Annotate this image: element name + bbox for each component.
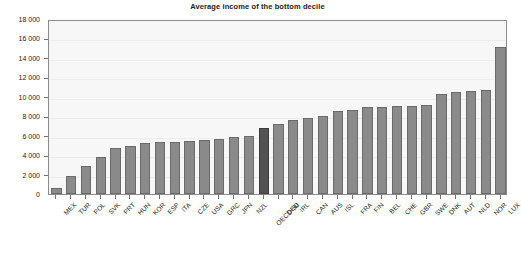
x-axis-tick-mark: [248, 195, 249, 199]
bar-bel: [377, 107, 387, 195]
x-axis-tick-mark: [129, 195, 130, 199]
x-axis-tick-mark: [352, 195, 353, 199]
bar-oecd-30: [259, 128, 269, 194]
y-axis-tick: 4 000: [0, 151, 48, 161]
bar-che: [392, 106, 402, 194]
x-axis-tick-mark: [218, 195, 219, 199]
x-axis-tick-mark: [55, 195, 56, 199]
x-axis-tick-label: GRC: [226, 201, 242, 217]
x-axis-tick-mark: [278, 195, 279, 199]
x-axis: MEXTURPOLSVKPRTHUNKORESPITACZEUSAGRCJPNN…: [48, 195, 507, 254]
x-axis-tick-label: ITA: [180, 201, 192, 213]
y-axis-tick: 18 000: [0, 15, 48, 25]
bar-cze: [184, 141, 194, 194]
bar-nld: [466, 91, 476, 194]
x-axis-tick-label: NZL: [255, 201, 269, 215]
x-axis-tick-mark: [307, 195, 308, 199]
x-axis-tick-label: CAN: [314, 201, 329, 216]
x-axis-tick-mark: [500, 195, 501, 199]
bar-aut: [451, 92, 461, 194]
y-axis-tick: 2 000: [0, 171, 48, 181]
x-axis-tick-mark: [381, 195, 382, 199]
bar-grc: [214, 139, 224, 194]
x-axis-tick-label: JPN: [240, 201, 254, 215]
x-axis-tick-label: AUS: [329, 201, 344, 216]
y-axis: 02 0004 0006 0008 00010 00012 00014 0001…: [0, 20, 48, 195]
y-axis-tick-label: 16 000: [19, 34, 40, 44]
bar-nor: [481, 90, 491, 194]
x-axis-tick-mark: [292, 195, 293, 199]
bar-nzl: [244, 136, 254, 194]
x-axis-tick-label: NLD: [477, 201, 491, 215]
x-axis-tick-label: BEL: [388, 201, 402, 215]
x-axis-tick-mark: [159, 195, 160, 199]
bar-swe: [421, 105, 431, 194]
bar-irl: [288, 120, 298, 194]
x-axis-tick-mark: [263, 195, 264, 199]
bar-usa: [199, 140, 209, 194]
x-axis-tick-label: CZE: [196, 201, 210, 215]
y-axis-tick-label: 6 000: [22, 132, 40, 142]
x-axis-tick-label: PRT: [122, 201, 136, 215]
bar-lux: [495, 47, 505, 194]
x-axis-tick-mark: [233, 195, 234, 199]
x-axis-tick-mark: [337, 195, 338, 199]
bar-can: [303, 118, 313, 194]
x-axis-tick-label: DNK: [448, 201, 463, 216]
bar-fin: [362, 107, 372, 194]
bar-ita: [170, 142, 180, 195]
bar-fra: [347, 110, 357, 194]
x-axis-tick-label: HUN: [137, 201, 152, 216]
x-axis-tick-label: GBR: [418, 201, 433, 216]
y-axis-tick-label: 12 000: [19, 73, 40, 83]
bar-svk: [96, 157, 106, 194]
bar-gbr: [407, 106, 417, 194]
y-axis-tick-label: 8 000: [22, 112, 40, 122]
x-axis-tick-label: ESP: [166, 201, 180, 215]
x-axis-tick-label: MEX: [63, 201, 78, 216]
x-axis-tick-mark: [70, 195, 71, 199]
x-axis-tick-label: AUT: [462, 201, 476, 215]
y-axis-tick-label: 14 000: [19, 54, 40, 64]
y-axis-tick-label: 10 000: [19, 93, 40, 103]
x-axis-tick-mark: [144, 195, 145, 199]
x-axis-tick-label: ISL: [343, 201, 355, 213]
x-axis-tick-label: LUX: [506, 201, 520, 215]
bar-deu: [273, 124, 283, 194]
y-axis-tick-label: 2 000: [22, 171, 40, 181]
bar-jpn: [229, 137, 239, 194]
x-axis-tick-label: SWE: [433, 201, 449, 217]
x-axis-tick-mark: [174, 195, 175, 199]
x-axis-tick-mark: [115, 195, 116, 199]
y-axis-tick: 16 000: [0, 34, 48, 44]
x-axis-tick-mark: [485, 195, 486, 199]
y-axis-tick-label: 4 000: [22, 151, 40, 161]
bar-dnk: [436, 94, 446, 194]
x-axis-tick-label: NOR: [492, 201, 508, 217]
bar-isl: [333, 111, 343, 194]
bar-tur: [66, 176, 76, 194]
bar-prt: [110, 148, 120, 194]
y-axis-tick: 6 000: [0, 132, 48, 142]
x-axis-tick-mark: [426, 195, 427, 199]
x-axis-tick-label: TUR: [77, 201, 92, 216]
x-axis-tick-mark: [203, 195, 204, 199]
x-axis-tick-label: KOR: [152, 201, 167, 216]
bar-hun: [125, 146, 135, 194]
y-axis-tick: 10 000: [0, 93, 48, 103]
x-axis-tick-label: SVK: [107, 201, 121, 215]
x-axis-tick-label: CHE: [403, 201, 418, 216]
bar-esp: [155, 142, 165, 194]
bar-mex: [51, 188, 61, 194]
y-axis-tick-label: 0: [36, 190, 40, 200]
y-axis-tick: 0: [0, 190, 48, 200]
x-axis-tick-mark: [470, 195, 471, 199]
plot-area: [48, 20, 507, 195]
x-axis-tick-label: IRL: [298, 201, 310, 213]
x-axis-tick-label: FIN: [373, 201, 386, 214]
bars-layer: [49, 21, 506, 194]
x-axis-tick-mark: [100, 195, 101, 199]
x-axis-tick-label: POL: [92, 201, 106, 215]
x-axis-tick-mark: [440, 195, 441, 199]
